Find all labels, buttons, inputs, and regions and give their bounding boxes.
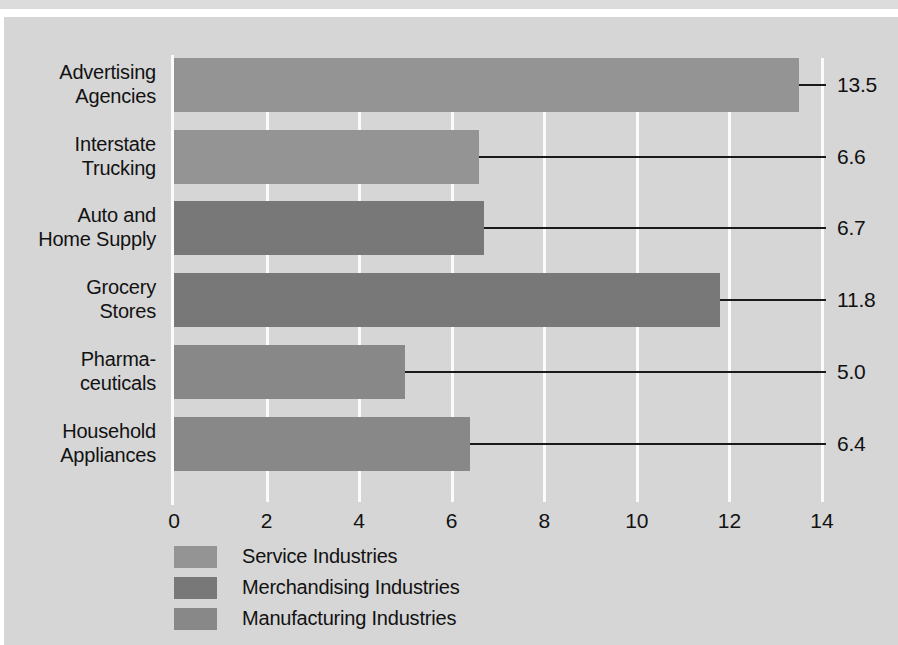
bar-autoand-homesupply: [174, 201, 484, 255]
plot-area: [174, 58, 822, 502]
bar-interstate-trucking: [174, 130, 479, 184]
value-label: 6.7: [837, 217, 897, 238]
chart-panel: AdvertisingAgenciesInterstateTruckingAut…: [4, 17, 898, 645]
value-label: 11.8: [837, 289, 897, 310]
category-label-line: Trucking: [0, 156, 156, 180]
category-label-line: Interstate: [0, 132, 156, 156]
category-label-line: Advertising: [0, 60, 156, 84]
x-tick-label-4: 4: [334, 510, 384, 531]
gridline-14: [821, 58, 824, 502]
category-label: Auto andHome Supply: [0, 203, 156, 251]
page-root: AdvertisingAgenciesInterstateTruckingAut…: [0, 0, 898, 645]
category-label-line: ceuticals: [0, 371, 156, 395]
category-label-line: Grocery: [0, 275, 156, 299]
gridline-12: [728, 58, 731, 502]
bar-household-appliances: [174, 417, 470, 471]
category-label-line: Appliances: [0, 443, 156, 467]
category-label: HouseholdAppliances: [0, 419, 156, 467]
x-tick-label-8: 8: [519, 510, 569, 531]
leader-line: [470, 443, 826, 445]
bar-grocery-stores: [174, 273, 720, 327]
category-label: AdvertisingAgencies: [0, 60, 156, 108]
leader-line: [405, 371, 826, 373]
leader-line: [479, 156, 826, 158]
x-tick-label-10: 10: [612, 510, 662, 531]
category-label-line: Household: [0, 419, 156, 443]
category-label: InterstateTrucking: [0, 132, 156, 180]
value-label: 13.5: [837, 74, 897, 95]
legend-swatch-icon: [174, 608, 217, 630]
page-top-strip: [0, 0, 898, 9]
leader-line: [484, 227, 826, 229]
bar-advertising-agencies: [174, 58, 799, 112]
legend-label: Service Industries: [242, 544, 397, 568]
value-label: 6.6: [837, 146, 897, 167]
x-tick-label-2: 2: [242, 510, 292, 531]
legend-swatch-icon: [174, 577, 217, 599]
x-tick-label-14: 14: [797, 510, 847, 531]
category-label: GroceryStores: [0, 275, 156, 323]
category-label-line: Auto and: [0, 203, 156, 227]
bar-pharma--ceuticals: [174, 345, 405, 399]
x-tick-label-12: 12: [704, 510, 754, 531]
category-label-line: Home Supply: [0, 227, 156, 251]
category-label-line: Agencies: [0, 84, 156, 108]
value-label: 6.4: [837, 433, 897, 454]
category-label: Pharma-ceuticals: [0, 347, 156, 395]
category-label-line: Pharma-: [0, 347, 156, 371]
x-tick-label-0: 0: [149, 510, 199, 531]
value-label: 5.0: [837, 361, 897, 382]
legend-swatch-icon: [174, 546, 217, 568]
legend-label: Manufacturing Industries: [242, 606, 456, 630]
category-label-line: Stores: [0, 299, 156, 323]
x-tick-label-6: 6: [427, 510, 477, 531]
legend-label: Merchandising Industries: [242, 575, 460, 599]
leader-line: [799, 84, 826, 86]
leader-line: [720, 299, 826, 301]
